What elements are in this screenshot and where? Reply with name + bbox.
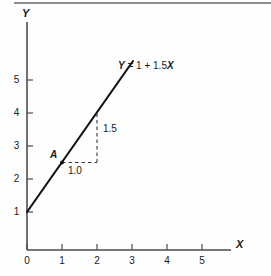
- equation-equals: =: [125, 60, 136, 71]
- y-tick-label-5: 5: [10, 74, 23, 85]
- x-tick-label-5: 5: [195, 255, 209, 266]
- y-tick-label-1: 1: [10, 206, 23, 217]
- y-tick-label-2: 2: [10, 173, 23, 184]
- y-tick-label-4: 4: [10, 107, 23, 118]
- equation-lhs: Y: [118, 60, 125, 71]
- point-a-marker: [60, 161, 64, 165]
- plot-area: [0, 0, 271, 276]
- function-line: [27, 61, 133, 212]
- x-tick-label-4: 4: [160, 255, 174, 266]
- equation-plus: +: [142, 60, 153, 71]
- x-axis-label: X: [236, 238, 243, 250]
- x-tick-label-0: 0: [20, 255, 34, 266]
- y-axis-label: Y: [22, 7, 29, 19]
- y-tick-label-3: 3: [10, 140, 23, 151]
- x-tick-label-3: 3: [125, 255, 139, 266]
- y-axis-ticks: [27, 80, 33, 212]
- x-tick-label-2: 2: [90, 255, 104, 266]
- figure-canvas: Y X 0 1 2 3 4 5 1 2 3 4 5 Y = 1 + 1.5X A…: [0, 0, 271, 276]
- point-a-label: A: [50, 149, 57, 160]
- equation-variable: X: [167, 60, 174, 71]
- run-label: 1.0: [68, 165, 82, 176]
- rise-label: 1.5: [103, 123, 117, 134]
- x-axis-ticks: [27, 244, 202, 250]
- equation-slope: 1.5: [153, 60, 167, 71]
- equation-label: Y = 1 + 1.5X: [118, 60, 174, 71]
- x-tick-label-1: 1: [55, 255, 69, 266]
